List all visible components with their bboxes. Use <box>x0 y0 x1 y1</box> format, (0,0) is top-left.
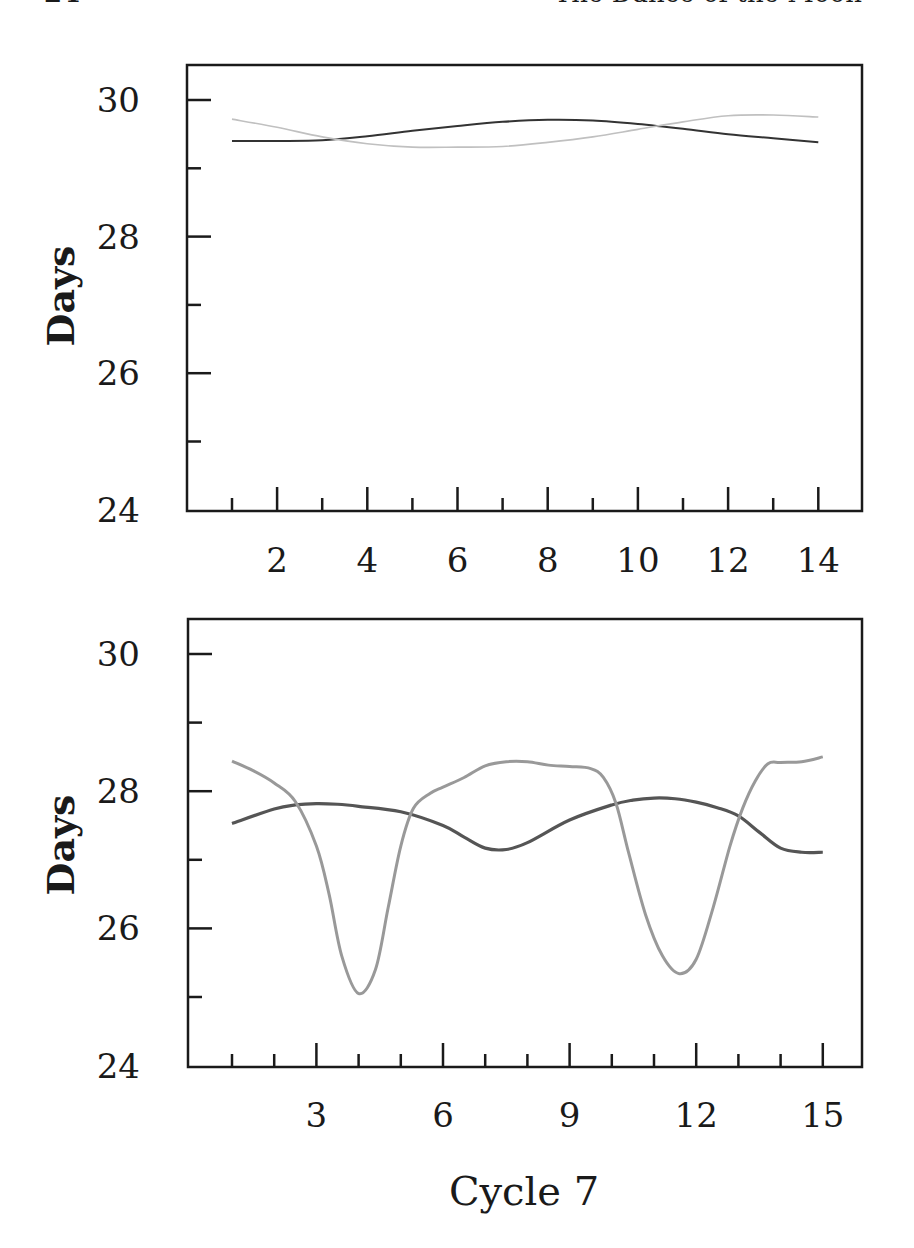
x-tick-label: 12 <box>706 540 749 580</box>
y-tick-label: 28 <box>97 217 140 257</box>
y-tick-label: 26 <box>97 353 140 393</box>
y-tick-label: 26 <box>97 908 140 948</box>
y-tick-label: 28 <box>97 771 140 811</box>
y-axis-title: Days <box>38 245 83 346</box>
x-tick-label: 3 <box>306 1095 328 1135</box>
x-tick-label: 10 <box>616 540 659 580</box>
x-tick-label: 12 <box>675 1095 718 1135</box>
chart-bottom: 302826243691215Days <box>38 619 862 1135</box>
y-tick-label: 30 <box>97 634 140 674</box>
x-tick-label: 15 <box>801 1095 844 1135</box>
series-dark-line <box>232 120 818 143</box>
series-dark-line <box>232 798 823 853</box>
x-tick-label: 14 <box>797 540 840 580</box>
chart-top: 302826242468101214Days <box>38 65 862 580</box>
x-tick-label: 6 <box>447 540 469 580</box>
x-tick-label: 6 <box>432 1095 454 1135</box>
y-tick-label: 30 <box>97 80 140 120</box>
plot-frame <box>187 65 862 511</box>
figure: 302826242468101214Days 302826243691215Da… <box>0 0 914 1248</box>
y-axis-title: Days <box>38 794 83 895</box>
x-tick-label: 9 <box>559 1095 581 1135</box>
series-light-line <box>232 757 823 994</box>
x-axis-caption: Cycle 7 <box>449 1168 599 1214</box>
x-tick-label: 8 <box>537 540 559 580</box>
y-tick-label: 24 <box>97 1046 140 1086</box>
x-tick-label: 2 <box>266 540 288 580</box>
x-tick-label: 4 <box>356 540 378 580</box>
y-tick-label: 24 <box>97 490 140 530</box>
